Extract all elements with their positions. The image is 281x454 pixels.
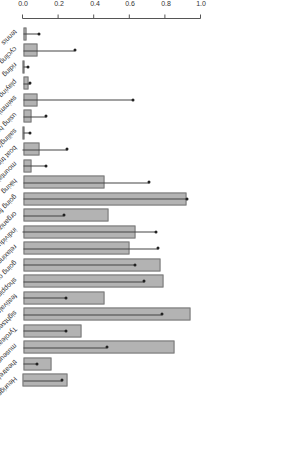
y-tick-label: 0.8 — [161, 0, 171, 6]
error-line — [23, 281, 144, 282]
data-point — [134, 263, 137, 266]
error-line — [23, 380, 62, 381]
y-tick-label: 0.6 — [125, 0, 135, 6]
error-line — [23, 215, 64, 216]
error-line — [23, 100, 133, 101]
chart-stage: 0.00.20.40.60.81.0Percenttenniscyclingri… — [0, 87, 281, 368]
error-line — [23, 182, 149, 183]
data-point — [29, 131, 32, 134]
data-point — [45, 164, 48, 167]
y-tick-label: 0.2 — [54, 0, 64, 6]
data-point — [105, 346, 108, 349]
error-line — [23, 116, 46, 117]
error-line — [23, 347, 107, 348]
data-point — [160, 313, 163, 316]
data-point — [185, 197, 188, 200]
error-line — [23, 298, 66, 299]
error-line — [23, 265, 135, 266]
error-line — [23, 149, 68, 150]
error-line — [23, 232, 157, 233]
y-tick-label: 1.0 — [197, 0, 207, 6]
data-point — [73, 49, 76, 52]
data-point — [64, 329, 67, 332]
error-line — [23, 166, 46, 167]
data-point — [62, 214, 65, 217]
error-line — [23, 331, 66, 332]
data-point — [38, 32, 41, 35]
error-line — [23, 248, 158, 249]
data-point — [36, 362, 39, 365]
data-point — [64, 296, 67, 299]
y-tick-label: 0.4 — [90, 0, 100, 6]
y-tick-label: 0.0 — [19, 0, 29, 6]
error-line — [23, 50, 75, 51]
error-line — [23, 199, 187, 200]
error-line — [23, 314, 162, 315]
